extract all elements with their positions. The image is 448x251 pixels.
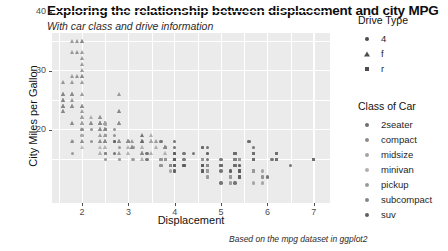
data-point <box>113 134 116 137</box>
data-point <box>98 121 102 125</box>
legend-item-class[interactable]: minivan <box>358 162 432 177</box>
data-point <box>117 139 121 143</box>
data-point <box>201 164 204 167</box>
data-point <box>238 169 241 172</box>
legend-item-class[interactable]: compact <box>358 132 432 147</box>
data-point <box>70 104 74 108</box>
data-point <box>206 152 209 155</box>
y-tick-label: 40 <box>36 6 46 16</box>
gridline-major-x <box>313 33 314 203</box>
data-point <box>206 164 209 167</box>
data-point <box>201 146 204 149</box>
data-point <box>98 145 102 149</box>
gridline-minor-y <box>52 159 330 160</box>
data-point <box>201 169 204 172</box>
chart-subtitle: With car class and drive information <box>47 20 213 32</box>
legend-item-class[interactable]: midsize <box>358 147 432 162</box>
circle-key-icon <box>358 147 375 162</box>
data-point <box>140 151 144 155</box>
legend-item-label: compact <box>381 134 417 145</box>
data-point <box>98 115 102 119</box>
x-tick-mark <box>221 203 222 206</box>
data-point <box>252 152 255 155</box>
gridline-major-x <box>174 33 175 203</box>
data-point <box>70 92 74 96</box>
data-point <box>159 164 162 167</box>
legend-item-label: pickup <box>381 179 408 190</box>
legend-class-title: Class of Car <box>358 100 432 112</box>
data-point <box>117 109 121 113</box>
data-point <box>206 175 209 178</box>
data-point <box>229 175 232 178</box>
plot-panel <box>52 33 330 203</box>
data-point <box>201 164 204 167</box>
data-point <box>206 169 209 172</box>
circle-key-icon <box>358 192 375 207</box>
data-point <box>117 151 121 155</box>
legend-item-drive[interactable]: r <box>358 61 408 76</box>
data-point <box>238 175 241 178</box>
data-point <box>70 104 74 108</box>
data-point <box>182 164 185 167</box>
data-point <box>238 169 241 172</box>
data-point <box>247 140 250 143</box>
data-point <box>71 152 74 155</box>
data-point <box>163 151 167 155</box>
data-point <box>61 92 65 96</box>
data-point <box>61 109 65 113</box>
data-point <box>201 169 204 172</box>
legend-item-label: 2seater <box>381 119 413 130</box>
gridline-minor-x <box>152 33 153 203</box>
x-tick-mark <box>267 203 268 206</box>
data-point <box>233 164 236 167</box>
data-point <box>192 152 195 155</box>
gridline-major-y <box>52 70 330 71</box>
data-point <box>229 175 232 178</box>
data-point <box>117 121 121 125</box>
data-point <box>169 164 172 167</box>
data-point <box>206 169 209 172</box>
data-point <box>98 133 102 137</box>
legend-item-class[interactable]: subcompact <box>358 192 432 207</box>
data-point <box>238 164 241 167</box>
legend-class-of-car: Class of Car 2seatercompactmidsizeminiva… <box>358 100 432 222</box>
legend-item-class[interactable]: suv <box>358 207 432 222</box>
gridline-major-y <box>52 11 330 12</box>
legend-item-label: 4 <box>381 33 386 44</box>
data-point <box>233 152 236 155</box>
data-point <box>130 145 134 149</box>
legend-item-drive[interactable]: f <box>358 46 408 61</box>
data-point <box>182 164 185 167</box>
legend-item-label: f <box>381 48 384 59</box>
x-tick-mark <box>82 203 83 206</box>
data-point <box>98 121 102 125</box>
data-point <box>61 104 65 108</box>
data-point <box>131 146 134 149</box>
gridline-minor-y <box>52 100 330 101</box>
data-point <box>89 121 93 125</box>
data-point <box>233 164 236 167</box>
data-point <box>233 152 236 155</box>
data-point <box>163 145 167 149</box>
data-point <box>206 164 209 167</box>
data-point <box>117 139 121 143</box>
data-point <box>229 175 232 178</box>
legend-item-drive[interactable]: 4 <box>358 31 408 46</box>
circle-key-icon <box>358 177 375 192</box>
data-point <box>252 169 255 172</box>
gridline-minor-x <box>59 33 60 203</box>
data-point <box>206 169 209 172</box>
data-point <box>71 140 74 143</box>
legend-item-class[interactable]: pickup <box>358 177 432 192</box>
data-point <box>98 121 102 125</box>
data-point <box>140 145 144 149</box>
data-point <box>229 169 232 172</box>
data-point <box>201 169 204 172</box>
legend-item-class[interactable]: 2seater <box>358 117 432 132</box>
legend-item-label: midsize <box>381 149 413 160</box>
data-point <box>89 115 93 119</box>
data-point <box>261 169 264 172</box>
triangle-key-icon <box>358 46 375 61</box>
data-point <box>201 169 204 172</box>
data-point <box>61 109 65 113</box>
